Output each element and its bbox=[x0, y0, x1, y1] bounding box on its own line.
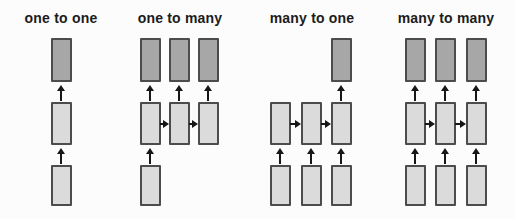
input-box bbox=[405, 165, 426, 206]
hidden-box bbox=[169, 102, 190, 145]
arrow-head bbox=[57, 148, 65, 154]
output-box bbox=[331, 38, 352, 82]
output-box bbox=[51, 38, 72, 82]
arrow-head bbox=[325, 120, 331, 128]
arrow-head bbox=[192, 120, 198, 128]
arrow-up-icon bbox=[0, 0, 515, 219]
arrow-stem bbox=[414, 90, 416, 101]
arrow-head bbox=[441, 148, 449, 154]
arrow-up-icon bbox=[0, 0, 515, 219]
arrow-up-icon bbox=[0, 0, 515, 219]
arrow-up-icon bbox=[0, 0, 515, 219]
arrow-up-icon bbox=[0, 0, 515, 219]
hidden-box bbox=[51, 102, 72, 145]
output-box bbox=[466, 38, 487, 82]
arrow-stem bbox=[60, 90, 62, 101]
arrow-stem bbox=[189, 123, 193, 125]
arrow-stem bbox=[455, 123, 461, 125]
arrow-right-icon bbox=[0, 0, 515, 219]
output-box bbox=[140, 38, 161, 82]
arrow-stem bbox=[475, 153, 477, 164]
hidden-box bbox=[301, 102, 322, 145]
arrow-head bbox=[441, 85, 449, 91]
arrow-stem bbox=[321, 123, 326, 125]
input-box bbox=[301, 165, 322, 206]
arrow-head bbox=[472, 85, 480, 91]
hidden-box bbox=[331, 102, 352, 145]
arrow-stem bbox=[178, 90, 180, 101]
diagram-stage: one to oneone to manymany to onemany to … bbox=[0, 0, 515, 219]
input-box bbox=[140, 165, 161, 206]
arrow-stem bbox=[475, 90, 477, 101]
arrow-head bbox=[337, 148, 345, 154]
arrow-stem bbox=[60, 153, 62, 164]
arrow-stem bbox=[149, 90, 151, 101]
arrow-head bbox=[411, 85, 419, 91]
arrow-head bbox=[276, 148, 284, 154]
arrow-head bbox=[429, 120, 435, 128]
arrow-head bbox=[175, 85, 183, 91]
arrow-stem bbox=[290, 123, 296, 125]
input-box bbox=[435, 165, 456, 206]
arrow-up-icon bbox=[0, 0, 515, 219]
panel-one-to-many: one to many bbox=[0, 0, 515, 219]
panel-title: one to one bbox=[25, 10, 98, 26]
arrow-head bbox=[472, 148, 480, 154]
arrow-stem bbox=[310, 153, 312, 164]
hidden-box bbox=[140, 102, 161, 145]
arrow-head bbox=[57, 85, 65, 91]
panel-one-to-one: one to one bbox=[0, 0, 515, 219]
hidden-box bbox=[435, 102, 456, 145]
arrow-head bbox=[163, 120, 169, 128]
hidden-box bbox=[466, 102, 487, 145]
arrow-right-icon bbox=[0, 0, 515, 219]
arrow-head bbox=[146, 85, 154, 91]
output-box bbox=[405, 38, 426, 82]
input-box bbox=[270, 165, 291, 206]
arrow-stem bbox=[414, 153, 416, 164]
panel-many-to-many: many to many bbox=[0, 0, 515, 219]
arrow-up-icon bbox=[0, 0, 515, 219]
arrow-up-icon bbox=[0, 0, 515, 219]
input-box bbox=[466, 165, 487, 206]
arrow-head bbox=[204, 85, 212, 91]
arrow-stem bbox=[444, 90, 446, 101]
arrow-right-icon bbox=[0, 0, 515, 219]
output-box bbox=[198, 38, 219, 82]
arrow-up-icon bbox=[0, 0, 515, 219]
arrow-stem bbox=[444, 153, 446, 164]
arrow-stem bbox=[160, 123, 164, 125]
arrow-right-icon bbox=[0, 0, 515, 219]
arrow-up-icon bbox=[0, 0, 515, 219]
arrow-head bbox=[411, 148, 419, 154]
arrow-right-icon bbox=[0, 0, 515, 219]
output-box bbox=[435, 38, 456, 82]
arrow-up-icon bbox=[0, 0, 515, 219]
arrow-up-icon bbox=[0, 0, 515, 219]
panel-many-to-one: many to one bbox=[0, 0, 515, 219]
input-box bbox=[51, 165, 72, 206]
hidden-box bbox=[270, 102, 291, 145]
panel-title: many to many bbox=[398, 10, 495, 26]
panel-title: one to many bbox=[138, 10, 223, 26]
arrow-stem bbox=[340, 90, 342, 101]
arrow-stem bbox=[340, 153, 342, 164]
arrow-head bbox=[295, 120, 301, 128]
arrow-stem bbox=[279, 153, 281, 164]
arrow-stem bbox=[149, 153, 151, 164]
arrow-head bbox=[460, 120, 466, 128]
arrow-up-icon bbox=[0, 0, 515, 219]
arrow-stem bbox=[207, 90, 209, 101]
output-box bbox=[169, 38, 190, 82]
arrow-up-icon bbox=[0, 0, 515, 219]
arrow-up-icon bbox=[0, 0, 515, 219]
hidden-box bbox=[405, 102, 426, 145]
hidden-box bbox=[198, 102, 219, 145]
panel-title: many to one bbox=[270, 10, 355, 26]
arrow-stem bbox=[425, 123, 430, 125]
input-box bbox=[331, 165, 352, 206]
arrow-head bbox=[337, 85, 345, 91]
arrow-up-icon bbox=[0, 0, 515, 219]
arrow-right-icon bbox=[0, 0, 515, 219]
arrow-head bbox=[307, 148, 315, 154]
